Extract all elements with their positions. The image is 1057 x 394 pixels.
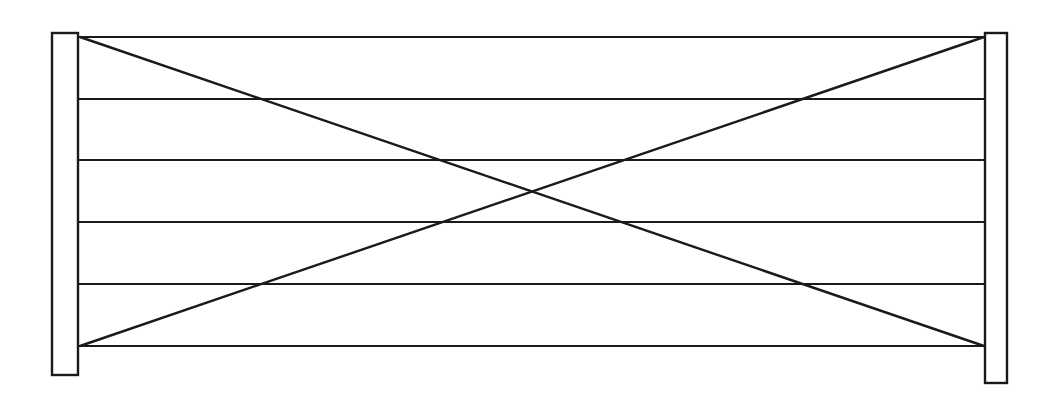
right-post [985,33,1007,383]
gate-panel-drawing [0,0,1057,394]
drawing-svg-root [0,0,1057,394]
left-post [52,33,78,375]
canvas-background [0,0,1057,394]
